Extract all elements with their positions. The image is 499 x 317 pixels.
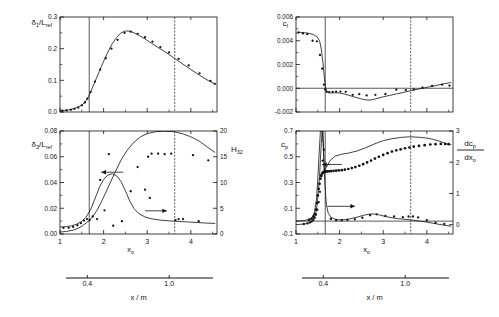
panel-bottom-left-xticklabel-2: 3 bbox=[145, 238, 149, 245]
panel-bottom-right-y2ticklabel-1: 1 bbox=[456, 190, 460, 197]
panel-bottom-right-point bbox=[391, 150, 394, 153]
panel-top-left-point bbox=[151, 41, 153, 43]
panel-bottom-right-y2ticklabel-0: 0 bbox=[456, 221, 460, 228]
panel-bottom-right-point bbox=[376, 213, 378, 215]
panel-bottom-left-y2ticklabel-0: 0 bbox=[220, 230, 224, 237]
panel-top-right-point bbox=[335, 90, 337, 92]
panel-top-right-point bbox=[374, 94, 376, 96]
panel-bottom-right-point bbox=[354, 166, 357, 169]
panel-bottom-right-point bbox=[412, 215, 414, 217]
xm-axis-title-1: x / m bbox=[366, 293, 382, 302]
ylabel-cp: cp bbox=[281, 140, 288, 150]
panel-bottom-right-point bbox=[407, 215, 409, 217]
panel-bottom-left-point bbox=[121, 220, 123, 222]
panel-top-left-point bbox=[136, 33, 138, 35]
panel-top-right-yticklabel-0: -0.002 bbox=[275, 108, 294, 115]
panel-bottom-left-point bbox=[89, 219, 91, 221]
panel-bottom-right-point bbox=[374, 157, 377, 160]
panel-top-left-yticklabel-1: 0.1 bbox=[48, 77, 57, 84]
panel-bottom-left-yticklabel-3: 0.06 bbox=[45, 153, 58, 160]
panel-bottom-right-point bbox=[370, 159, 373, 162]
panel-bottom-right-point bbox=[404, 147, 407, 150]
panel-top-left-yticklabel-3: 0.3 bbox=[48, 13, 57, 20]
panel-bottom-left-point bbox=[96, 218, 98, 220]
panel-bottom-right-point bbox=[312, 219, 314, 221]
panel-bottom-right-xticklabel-2: 3 bbox=[381, 238, 385, 245]
panel-bottom-right-point bbox=[314, 217, 316, 219]
panel-bottom-right-yticklabel-2: 0.3 bbox=[284, 179, 293, 186]
panel-bottom-right-point bbox=[347, 168, 350, 171]
panel-bottom-left-point bbox=[99, 179, 101, 181]
panel-bottom-left-point bbox=[130, 190, 132, 192]
panel-bottom-right-point bbox=[402, 216, 404, 218]
panel-bottom-right-xticklabel-0: 1 bbox=[294, 238, 298, 245]
panel-bottom-right-point bbox=[354, 218, 356, 220]
panel-bottom-right-yticklabel-4: 0.7 bbox=[284, 127, 293, 134]
panel-top-right-point bbox=[441, 84, 443, 86]
ylabel-H32: H32 bbox=[231, 145, 243, 155]
panel-bottom-left-point bbox=[170, 153, 172, 155]
panel-top-right-point bbox=[331, 91, 333, 93]
panel-bottom-left-point bbox=[182, 218, 184, 220]
panel-top-left-point bbox=[198, 72, 200, 74]
panel-bottom-right-point bbox=[343, 168, 346, 171]
panel-bottom-left-y2ticklabel-1: 5 bbox=[220, 205, 224, 212]
panel-bottom-right-y2ticklabel-3: 3 bbox=[456, 127, 460, 134]
ylabel-cf: cf bbox=[282, 19, 288, 29]
panel-bottom-left-y2ticklabel-4: 20 bbox=[220, 127, 228, 134]
panel-bottom-right-point bbox=[361, 217, 363, 219]
panel-bottom-left-point bbox=[92, 215, 94, 217]
panel-bottom-right-point bbox=[335, 169, 338, 172]
panel-top-left-point bbox=[177, 58, 179, 60]
panel-bottom-right-point bbox=[412, 145, 415, 148]
panel-top-right-frame bbox=[296, 17, 453, 112]
panel-top-left-point bbox=[94, 80, 96, 82]
panel-bottom-right-point bbox=[315, 214, 317, 216]
panel-top-right-yticklabel-3: 0.004 bbox=[277, 37, 293, 44]
panel-bottom-right-point bbox=[341, 219, 343, 221]
panel-bottom-right-point bbox=[434, 143, 437, 146]
panel-top-right-point bbox=[345, 91, 347, 93]
panel-bottom-left-frame bbox=[60, 131, 217, 234]
panel-top-left-point bbox=[144, 36, 146, 38]
panel-bottom-right-point bbox=[366, 161, 369, 164]
panel-bottom-left-point bbox=[83, 219, 85, 221]
panel-top-left-curve-0 bbox=[60, 31, 215, 111]
panel-bottom-left-point bbox=[103, 209, 105, 211]
panel-bottom-right-point bbox=[318, 201, 320, 203]
panel-top-right-point bbox=[448, 84, 450, 86]
panel-top-left-point bbox=[89, 91, 91, 93]
panel-top-left-point bbox=[81, 104, 83, 106]
panel-top-left-point bbox=[159, 46, 161, 48]
panel-top-left-point bbox=[65, 109, 67, 111]
panel-top-left-point bbox=[116, 39, 118, 41]
panel-bottom-left-curve-1 bbox=[60, 174, 215, 227]
panel-bottom-left-point bbox=[80, 222, 82, 224]
panel-bottom-left-yticklabel-0: 0.00 bbox=[45, 230, 58, 237]
panel-top-left-yticklabel-0: 0.0 bbox=[48, 108, 57, 115]
panel-bottom-right-point bbox=[439, 143, 442, 146]
panel-bottom-right-point bbox=[426, 219, 428, 221]
panel-bottom-left-xticklabel-1: 2 bbox=[102, 238, 106, 245]
panel-top-left-point bbox=[105, 57, 107, 59]
panel-bottom-left-point bbox=[76, 224, 78, 226]
panel-bottom-right-y2ticklabel-2: 2 bbox=[456, 159, 460, 166]
panel-bottom-right-point bbox=[393, 215, 395, 217]
panel-top-left-point bbox=[188, 64, 190, 66]
panel-bottom-left-curve-0 bbox=[60, 131, 215, 232]
panel-bottom-left-point bbox=[112, 225, 114, 227]
panel-bottom-right-point bbox=[395, 149, 398, 152]
panel-bottom-left-point bbox=[144, 189, 146, 191]
panel-top-left-point bbox=[168, 51, 170, 53]
panel-bottom-left-xaxis-title: xo bbox=[127, 245, 134, 255]
panel-bottom-right-point bbox=[378, 155, 381, 158]
xm-ticklabel-0-0: 0.4 bbox=[82, 280, 92, 287]
panel-bottom-left-y2ticklabel-3: 15 bbox=[220, 153, 228, 160]
ylabel-dcp-den: dxo bbox=[464, 153, 475, 163]
panel-bottom-left-y2ticklabel-2: 10 bbox=[220, 179, 228, 186]
panel-top-right-point bbox=[328, 91, 330, 93]
ylabel-delta3: δ3/Lref bbox=[31, 140, 52, 150]
panel-bottom-left-point bbox=[147, 156, 149, 158]
panel-top-left-point bbox=[77, 106, 79, 108]
panel-bottom-right-point bbox=[418, 145, 421, 148]
